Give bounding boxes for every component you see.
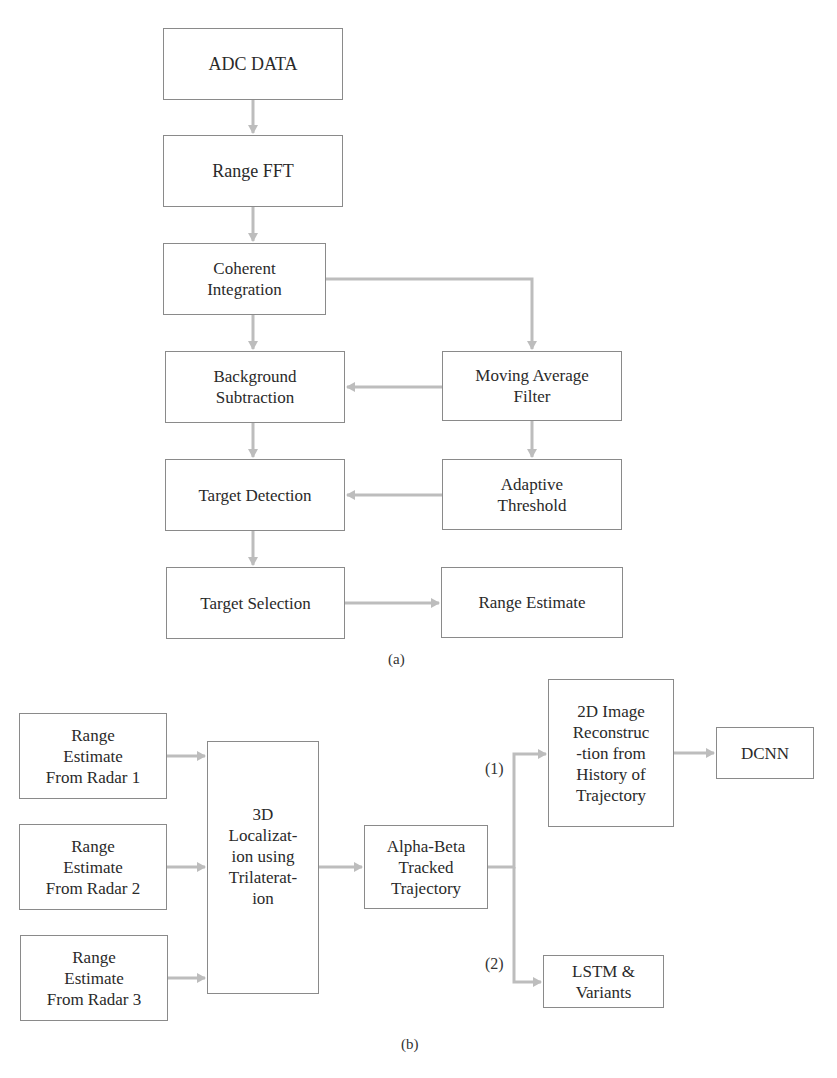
localization-line5: ion (252, 888, 274, 909)
background-label-line2: Subtraction (216, 387, 294, 408)
radar3-line3: From Radar 3 (47, 989, 141, 1010)
alpha-beta-line2: Tracked (398, 857, 453, 878)
coherent-label-line1: Coherent (213, 258, 275, 279)
coherent-integration-box: Coherent Integration (163, 243, 326, 315)
dcnn-label: DCNN (741, 743, 789, 764)
radar3-line2: Estimate (64, 968, 123, 989)
radar2-line1: Range (71, 836, 114, 857)
image2d-line2: Reconstruc (573, 722, 649, 743)
background-subtraction-box: Background Subtraction (165, 351, 345, 423)
lstm-line2: Variants (576, 982, 632, 1003)
image2d-line1: 2D Image (577, 701, 645, 722)
adc-data-label: ADC DATA (208, 54, 297, 75)
adaptive-threshold-box: Adaptive Threshold (442, 459, 622, 530)
branch-label-2: (2) (485, 955, 504, 973)
alpha-beta-tracked-box: Alpha-Beta Tracked Trajectory (364, 825, 488, 909)
alpha-beta-line1: Alpha-Beta (387, 836, 465, 857)
localization-line4: Trilaterat- (229, 867, 297, 888)
dcnn-box: DCNN (716, 727, 814, 779)
range-estimate-label: Range Estimate (478, 592, 585, 613)
target-detection-label: Target Detection (198, 485, 311, 506)
image2d-line3: -tion from (576, 743, 645, 764)
image2d-line5: Trajectory (576, 785, 646, 806)
localization-line2: Localizat- (229, 825, 298, 846)
adaptive-label-line2: Threshold (498, 495, 567, 516)
radar3-range-box: Range Estimate From Radar 3 (20, 935, 168, 1021)
image2d-line4: History of (576, 764, 645, 785)
localization-line1: 3D (253, 804, 274, 825)
radar3-line1: Range (72, 947, 115, 968)
target-selection-label: Target Selection (200, 593, 310, 614)
coherent-label-line2: Integration (207, 279, 282, 300)
radar1-line3: From Radar 1 (46, 767, 140, 788)
target-selection-box: Target Selection (166, 567, 345, 639)
target-detection-box: Target Detection (165, 459, 345, 531)
localization-3d-box: 3D Localizat- ion using Trilaterat- ion (207, 741, 319, 994)
connector-arrows (0, 0, 837, 1078)
radar2-range-box: Range Estimate From Radar 2 (19, 824, 167, 910)
moving-average-filter-box: Moving Average Filter (442, 351, 622, 421)
background-label-line1: Background (213, 366, 296, 387)
image-reconstruction-box: 2D Image Reconstruc -tion from History o… (548, 679, 674, 827)
radar1-line1: Range (71, 725, 114, 746)
adaptive-label-line1: Adaptive (501, 474, 563, 495)
caption-b: (b) (401, 1036, 419, 1053)
alpha-beta-line3: Trajectory (391, 878, 461, 899)
radar2-line3: From Radar 2 (46, 878, 140, 899)
radar1-range-box: Range Estimate From Radar 1 (19, 713, 167, 799)
range-fft-box: Range FFT (163, 135, 343, 207)
adc-data-box: ADC DATA (163, 28, 343, 100)
caption-a: (a) (388, 651, 405, 668)
moving-avg-label-line1: Moving Average (475, 365, 588, 386)
radar1-line2: Estimate (63, 746, 122, 767)
range-fft-label: Range FFT (212, 161, 294, 182)
localization-line3: ion using (232, 846, 295, 867)
lstm-variants-box: LSTM & Variants (543, 955, 664, 1008)
lstm-line1: LSTM & (572, 961, 635, 982)
moving-avg-label-line2: Filter (514, 386, 551, 407)
range-estimate-box: Range Estimate (441, 567, 623, 638)
branch-label-1: (1) (485, 760, 504, 778)
radar2-line2: Estimate (63, 857, 122, 878)
